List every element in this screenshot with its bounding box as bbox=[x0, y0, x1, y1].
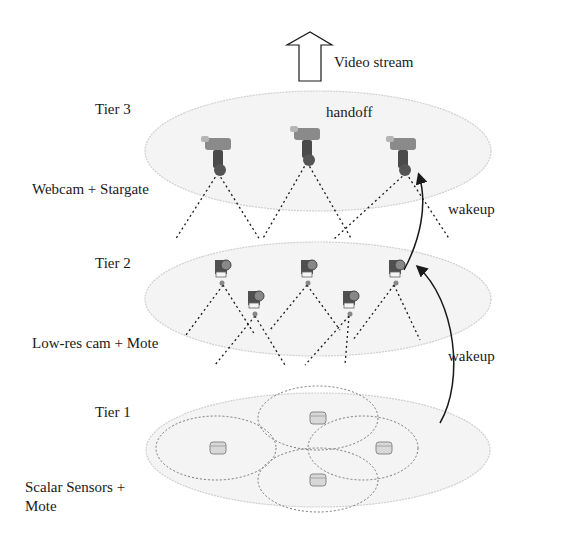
tier2-label: Tier 2 bbox=[95, 254, 131, 272]
tier1-description-line1: Scalar Sensors + bbox=[25, 478, 125, 496]
tier3-plane bbox=[145, 91, 491, 211]
video-stream-arrow-icon bbox=[287, 32, 332, 81]
video-stream-label: Video stream bbox=[334, 53, 414, 71]
scalar-sensor-icon bbox=[310, 412, 326, 424]
tier1-label: Tier 1 bbox=[95, 403, 131, 421]
tiered-camera-network-diagram: Video stream handoff Tier 3 Webcam + Sta… bbox=[0, 0, 565, 537]
tier1-description-line2: Mote bbox=[25, 497, 57, 515]
tier2-description: Low-res cam + Mote bbox=[32, 334, 158, 352]
tier3-label: Tier 3 bbox=[95, 100, 131, 118]
scalar-sensor-icon bbox=[210, 442, 226, 454]
diagram-canvas bbox=[0, 0, 565, 537]
handoff-label: handoff bbox=[326, 103, 372, 121]
tier2-plane bbox=[145, 242, 491, 356]
scalar-sensor-icon bbox=[310, 474, 326, 486]
scalar-sensor-icon bbox=[376, 442, 392, 454]
tier3-description: Webcam + Stargate bbox=[32, 180, 149, 198]
wakeup-upper-label: wakeup bbox=[448, 200, 495, 218]
wakeup-lower-label: wakeup bbox=[448, 347, 495, 365]
